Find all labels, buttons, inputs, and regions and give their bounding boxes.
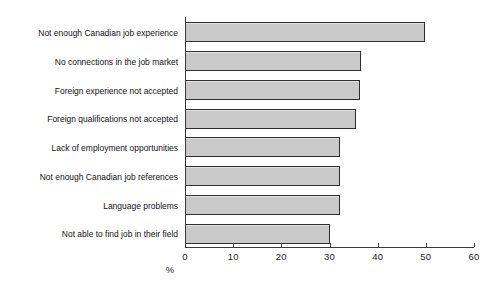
bar bbox=[185, 109, 356, 129]
x-axis-tick bbox=[233, 243, 234, 247]
category-label: Not enough Canadian job experience bbox=[0, 28, 178, 39]
bar bbox=[185, 166, 340, 186]
x-axis-tick-label: 20 bbox=[261, 251, 301, 262]
x-axis-tick bbox=[474, 243, 475, 247]
x-axis-tick-label: 60 bbox=[454, 251, 494, 262]
y-axis-line bbox=[185, 17, 186, 247]
category-label: Language problems bbox=[0, 201, 178, 212]
bar bbox=[185, 195, 340, 215]
x-axis-tick-label: 50 bbox=[406, 251, 446, 262]
bar bbox=[185, 22, 425, 42]
category-label: Lack of employment opportunities bbox=[0, 143, 178, 154]
bar-chart: Not enough Canadian job experience No co… bbox=[0, 0, 498, 298]
x-axis-tick-label: 40 bbox=[358, 251, 398, 262]
x-axis-title-text: % bbox=[166, 264, 174, 275]
bar bbox=[185, 137, 340, 157]
category-label: Not enough Canadian job references bbox=[0, 172, 178, 183]
x-axis-tick bbox=[281, 243, 282, 247]
x-axis-tick-label: 30 bbox=[310, 251, 350, 262]
x-axis-tick-label: 10 bbox=[213, 251, 253, 262]
category-label: No connections in the job market bbox=[0, 57, 178, 68]
x-axis-line bbox=[185, 247, 474, 248]
x-axis-tick bbox=[185, 243, 186, 247]
x-axis-tick bbox=[426, 243, 427, 247]
x-axis-tick-label: 0 bbox=[165, 251, 205, 262]
x-axis-title: % bbox=[0, 264, 498, 275]
bar bbox=[185, 51, 361, 71]
bar bbox=[185, 224, 330, 244]
x-axis-tick bbox=[330, 243, 331, 247]
category-label: Foreign qualifications not accepted bbox=[0, 114, 178, 125]
category-label: Foreign experience not accepted bbox=[0, 86, 178, 97]
category-label: Not able to find job in their field bbox=[0, 229, 178, 240]
bar bbox=[185, 80, 360, 100]
x-axis-tick bbox=[378, 243, 379, 247]
